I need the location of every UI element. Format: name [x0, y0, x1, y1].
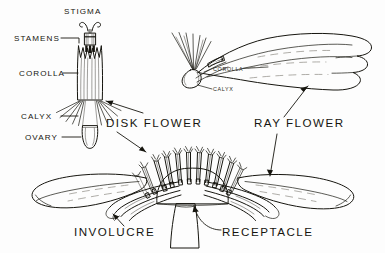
stigma-label: STIGMA — [64, 7, 101, 16]
botanical-diagram: COROLLA CALYX — [0, 0, 385, 253]
receptacle-label: RECEPTACLE — [222, 225, 313, 238]
involucre-label: INVOLUCRE — [74, 225, 155, 238]
composite-flower-figure: COROLLA CALYX — [0, 0, 385, 253]
disk-flower-label: DISK FLOWER — [106, 116, 202, 129]
ovary-label: OVARY — [25, 133, 58, 142]
ray-corolla-label: COROLLA — [213, 66, 243, 72]
ray-calyx-label: CALYX — [213, 86, 234, 92]
calyx-label: CALYX — [21, 112, 52, 121]
ray-flower-label: RAY FLOWER — [254, 116, 345, 129]
stamens-label: STAMENS — [14, 34, 60, 43]
corolla-label: COROLLA — [19, 69, 65, 78]
